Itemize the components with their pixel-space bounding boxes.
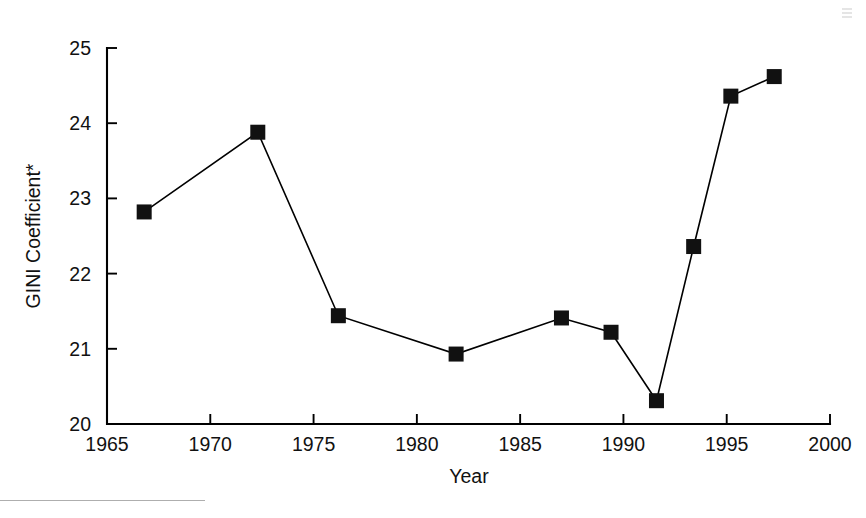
y-axis-title: GINI Coefficient* — [22, 163, 44, 308]
data-point-3 — [449, 347, 464, 362]
x-tick-label-1995: 1995 — [705, 433, 749, 455]
line-chart-canvas: 2021222324251965197019751980198519901995… — [0, 0, 866, 518]
data-point-8 — [723, 89, 738, 104]
tick-marks-group — [107, 48, 830, 424]
data-point-7 — [686, 239, 701, 254]
data-point-1 — [250, 125, 265, 140]
x-tick-label-1990: 1990 — [602, 433, 646, 455]
y-tick-label-22: 22 — [69, 263, 91, 285]
x-tick-label-1985: 1985 — [498, 433, 542, 455]
data-point-4 — [554, 310, 569, 325]
data-point-2 — [331, 308, 346, 323]
axes-group — [107, 48, 830, 424]
scan-artifact-mark — [842, 8, 852, 22]
data-point-0 — [137, 204, 152, 219]
footer-divider — [0, 500, 205, 501]
x-tick-label-1970: 1970 — [189, 433, 233, 455]
y-tick-label-23: 23 — [69, 187, 91, 209]
data-point-9 — [767, 69, 782, 84]
y-tick-label-20: 20 — [69, 413, 91, 435]
y-tick-label-25: 25 — [69, 37, 91, 59]
chart-figure: 2021222324251965197019751980198519901995… — [0, 0, 866, 518]
data-point-6 — [649, 393, 664, 408]
x-axis-title: Year — [449, 465, 489, 487]
y-tick-label-21: 21 — [69, 338, 91, 360]
y-tick-label-24: 24 — [69, 112, 91, 134]
x-tick-label-1975: 1975 — [292, 433, 336, 455]
data-point-5 — [604, 325, 619, 340]
data-markers-group — [137, 69, 782, 408]
x-tick-label-1980: 1980 — [395, 433, 439, 455]
axis-spines — [107, 48, 830, 424]
x-tick-label-2000: 2000 — [808, 433, 852, 455]
x-tick-label-1965: 1965 — [85, 433, 129, 455]
